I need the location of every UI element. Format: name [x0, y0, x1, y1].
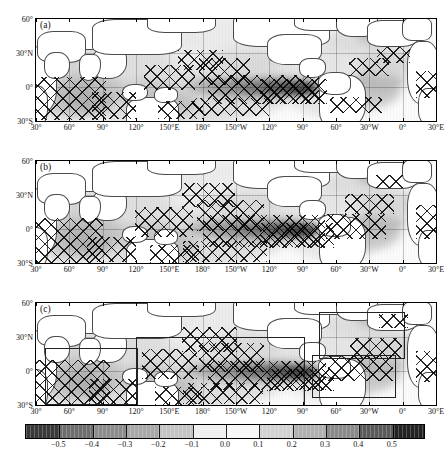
x-tick-label: 120° — [262, 123, 277, 132]
axis-tick — [69, 161, 70, 164]
map-panel-a[interactable]: (a) — [35, 18, 437, 122]
axis-tick — [369, 303, 370, 306]
axis-tick — [69, 19, 70, 22]
x-tick-label: 90° — [297, 407, 308, 416]
axis-tick — [103, 118, 104, 121]
axis-tick — [336, 161, 337, 164]
x-tick-label: 120° — [262, 265, 277, 274]
x-axis-panel-b: 30°60°90°120°150°E180°150°W120°90°60°30°… — [35, 265, 437, 277]
x-tick-label: 60° — [64, 265, 75, 274]
significance-region — [345, 194, 394, 214]
colorbar-divider — [159, 425, 160, 438]
colorbar-divider — [393, 425, 394, 438]
map-panel-c[interactable]: (c) — [35, 302, 437, 406]
axis-tick — [403, 19, 404, 22]
axis-tick — [169, 402, 170, 405]
axis-tick — [169, 118, 170, 121]
x-tick-label: 60° — [64, 123, 75, 132]
significance-region — [330, 97, 381, 113]
significance-region — [326, 214, 386, 239]
colorbar-tick-label: −0.1 — [184, 440, 199, 449]
significance-region — [87, 237, 136, 262]
colorbar-divider — [293, 425, 294, 438]
axis-tick — [36, 19, 37, 22]
axis-tick — [269, 303, 270, 306]
axis-tick — [336, 118, 337, 121]
axis-tick — [136, 118, 137, 121]
x-tick-label: 30° — [30, 123, 41, 132]
y-tick-label: 60° — [22, 299, 33, 308]
axis-tick — [303, 260, 304, 263]
axis-tick — [269, 402, 270, 405]
significance-region — [377, 47, 410, 63]
panel-label-b: (b) — [40, 162, 51, 172]
y-tick-label: 30°N — [16, 191, 33, 200]
x-tick-label: 30°E — [428, 265, 444, 274]
x-tick-label: 90° — [97, 123, 108, 132]
axis-tick — [236, 402, 237, 405]
axis-tick — [136, 260, 137, 263]
x-tick-label: 30°E — [428, 123, 444, 132]
x-tick-label: 120° — [128, 265, 143, 274]
x-tick-label: 150°E — [159, 407, 179, 416]
x-tick-label: 90° — [297, 265, 308, 274]
x-tick-label: 180° — [195, 265, 210, 274]
x-tick-label: 0° — [399, 265, 406, 274]
axis-tick — [369, 118, 370, 121]
axis-tick — [36, 260, 37, 263]
x-tick-label: 30°E — [428, 407, 444, 416]
axis-tick — [169, 161, 170, 164]
axis-tick — [136, 161, 137, 164]
x-tick-label: 30° — [30, 265, 41, 274]
axis-tick — [36, 402, 37, 405]
x-tick-label: 150°W — [225, 123, 248, 132]
axis-tick — [236, 118, 237, 121]
x-tick-label: 30°W — [360, 407, 379, 416]
x-tick-label: 90° — [97, 265, 108, 274]
axis-tick — [169, 303, 170, 306]
map-panel-b[interactable]: (b) — [35, 160, 437, 264]
analysis-region-box — [312, 355, 396, 398]
axis-tick — [36, 118, 37, 121]
colorbar-divider — [226, 425, 227, 438]
x-tick-label: 30° — [30, 407, 41, 416]
x-tick-label: 0° — [399, 407, 406, 416]
landmass — [147, 161, 216, 175]
significance-region — [416, 205, 436, 239]
landmass — [402, 161, 433, 183]
x-tick-label: 90° — [297, 123, 308, 132]
significance-region — [192, 98, 270, 116]
axis-tick — [103, 303, 104, 306]
axis-tick — [403, 161, 404, 164]
axis-tick — [403, 118, 404, 121]
x-tick-label: 180° — [195, 407, 210, 416]
map-canvas-b — [36, 161, 436, 263]
colorbar-tick-label: −0.3 — [118, 440, 133, 449]
axis-tick — [236, 303, 237, 306]
significance-region — [416, 351, 436, 383]
colorbar-tick-label: 0.1 — [253, 440, 263, 449]
x-tick-label: 90° — [97, 407, 108, 416]
axis-tick — [36, 161, 37, 164]
axis-tick — [403, 402, 404, 405]
axis-tick — [203, 118, 204, 121]
axis-tick — [203, 303, 204, 306]
significance-region — [260, 223, 333, 248]
map-canvas-a — [36, 19, 436, 121]
x-tick-label: 150°W — [225, 407, 248, 416]
axis-tick — [403, 260, 404, 263]
axis-tick — [303, 161, 304, 164]
axis-tick — [269, 19, 270, 22]
axis-tick — [169, 260, 170, 263]
axis-tick — [269, 161, 270, 164]
y-tick-label: 60° — [22, 15, 33, 24]
y-axis-panel-a: 60°30°N0°30°S — [0, 18, 33, 122]
colorbar-divider — [326, 425, 327, 438]
colorbar[interactable] — [25, 424, 425, 439]
axis-tick — [203, 260, 204, 263]
y-tick-label: 30°N — [16, 49, 33, 58]
x-tick-label: 60° — [330, 407, 341, 416]
x-tick-label: 120° — [128, 123, 143, 132]
axis-tick — [303, 303, 304, 306]
significance-region — [150, 245, 199, 263]
